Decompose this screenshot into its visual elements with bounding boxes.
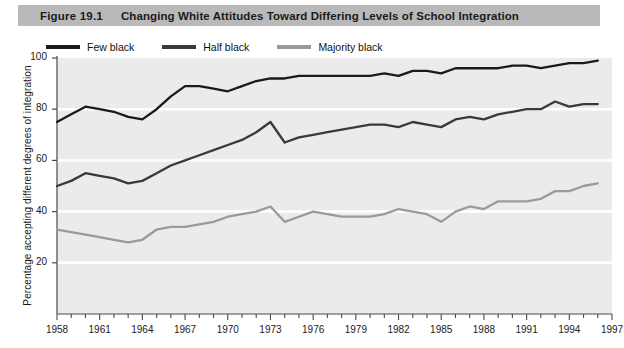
- y-tick-label: 60: [21, 153, 47, 164]
- x-tick-label: 1973: [250, 324, 290, 335]
- y-tick-label: 20: [21, 256, 47, 267]
- y-tick-label: 40: [21, 205, 47, 216]
- x-tick-label: 1988: [464, 324, 504, 335]
- x-tick-label: 1994: [549, 324, 589, 335]
- x-tick-label: 1964: [122, 324, 162, 335]
- chart-plot-area: Percentage accepting different degrees o…: [0, 0, 624, 348]
- line-chart-svg: [0, 0, 624, 348]
- figure-root: Figure 19.1 Changing White Attitudes Tow…: [0, 0, 624, 348]
- x-tick-label: 1967: [165, 324, 205, 335]
- x-tick-label: 1997: [592, 324, 624, 335]
- y-tick-label: 100: [21, 51, 47, 62]
- x-tick-label: 1961: [80, 324, 120, 335]
- x-tick-label: 1985: [421, 324, 461, 335]
- x-tick-label: 1991: [507, 324, 547, 335]
- x-tick-label: 1958: [37, 324, 77, 335]
- x-tick-label: 1982: [379, 324, 419, 335]
- x-tick-label: 1979: [336, 324, 376, 335]
- plot-background: [57, 58, 612, 314]
- x-tick-label: 1976: [293, 324, 333, 335]
- x-tick-label: 1970: [208, 324, 248, 335]
- y-tick-label: 80: [21, 102, 47, 113]
